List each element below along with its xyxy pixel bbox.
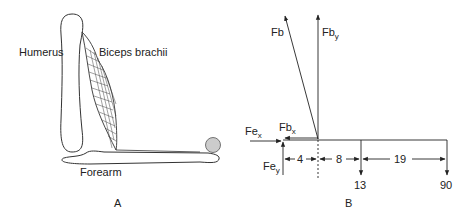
fey-label: Fey	[263, 160, 280, 175]
distance-4: 4	[297, 153, 303, 165]
biceps-label: Biceps brachii	[99, 46, 167, 58]
weight-ball	[206, 138, 221, 153]
load-90-label: 90	[440, 179, 452, 191]
fb-label: Fb	[271, 26, 284, 38]
panel-b-force-diagram	[250, 15, 447, 180]
distance-19: 19	[394, 153, 406, 165]
panel-b-label: B	[345, 197, 352, 209]
forearm-label: Forearm	[80, 166, 122, 178]
load-13-label: 13	[354, 179, 366, 191]
panel-a-label: A	[114, 197, 122, 209]
distance-8: 8	[336, 153, 342, 165]
panel-a-arm-diagram: Humerus Biceps brachii Forearm A	[19, 14, 221, 209]
humerus-bone	[61, 14, 83, 152]
fbx-label: Fbx	[279, 121, 296, 136]
forearm-bone	[62, 151, 219, 164]
fby-label: Fby	[322, 26, 339, 41]
humerus-label: Humerus	[19, 46, 64, 58]
panel-b-labels: Fb Fby Fbx Fex Fey 4 8 19 13 90 B	[245, 26, 452, 209]
fex-label: Fex	[245, 125, 262, 140]
